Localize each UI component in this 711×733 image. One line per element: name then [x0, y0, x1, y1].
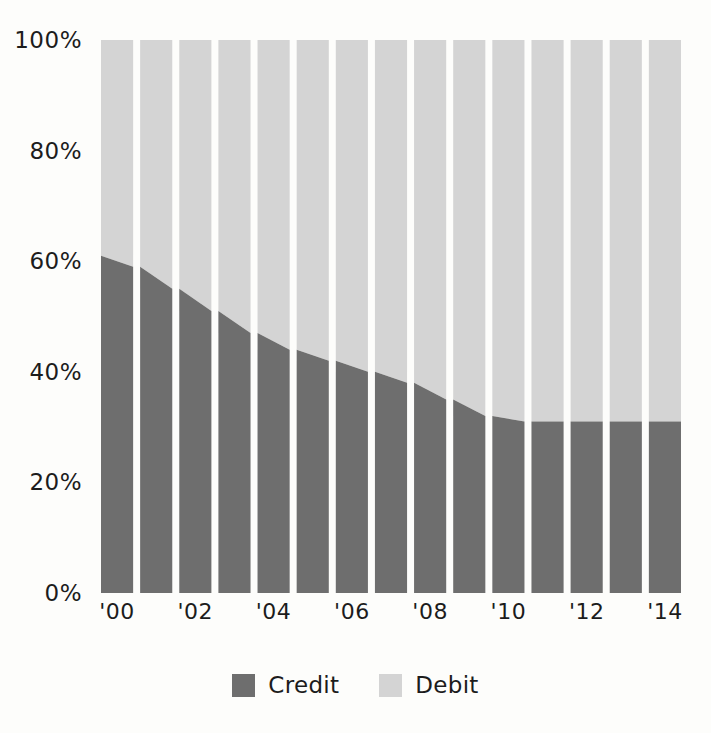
credit-segment — [258, 333, 290, 593]
legend-label: Debit — [415, 674, 478, 697]
chart-column — [375, 40, 407, 593]
y-axis-tick-label: 60% — [0, 250, 92, 273]
legend-swatch-icon — [232, 674, 255, 697]
chart-column — [610, 40, 642, 593]
debit-segment — [297, 40, 329, 361]
legend-item[interactable]: Debit — [379, 674, 478, 697]
debit-segment — [492, 40, 524, 422]
credit-segment — [492, 416, 524, 593]
debit-segment — [258, 40, 290, 350]
y-axis-tick-label: 40% — [0, 360, 92, 383]
credit-segment — [414, 383, 446, 593]
x-axis-tick-label: '06 — [334, 601, 370, 623]
y-axis-tick-label: 80% — [0, 139, 92, 162]
chart-column — [258, 40, 290, 593]
y-axis-tick-label: 20% — [0, 471, 92, 494]
chart-column — [414, 40, 446, 593]
x-axis: '00'02'04'06'08'10'12'14 — [101, 601, 688, 635]
chart-column — [297, 40, 329, 593]
chart-column — [140, 40, 172, 593]
x-axis-tick-label: '00 — [99, 601, 135, 623]
credit-segment — [375, 372, 407, 593]
debit-segment — [649, 40, 681, 422]
legend-item[interactable]: Credit — [232, 674, 339, 697]
credit-segment — [101, 256, 133, 593]
credit-segment — [336, 361, 368, 593]
chart-legend: CreditDebit — [0, 665, 711, 705]
x-axis-tick-label: '10 — [491, 601, 527, 623]
legend-label: Credit — [268, 674, 339, 697]
chart-column — [179, 40, 211, 593]
chart-column — [531, 40, 563, 593]
legend-swatch-icon — [379, 674, 402, 697]
x-axis-tick-label: '02 — [178, 601, 214, 623]
debit-segment — [101, 40, 133, 267]
chart-column — [649, 40, 681, 593]
debit-segment — [531, 40, 563, 422]
debit-segment — [453, 40, 485, 416]
credit-segment — [571, 422, 603, 593]
debit-segment — [179, 40, 211, 311]
chart-column — [336, 40, 368, 593]
x-axis-tick-label: '04 — [256, 601, 292, 623]
credit-segment — [179, 289, 211, 593]
x-axis-tick-label: '12 — [569, 601, 605, 623]
credit-segment — [297, 350, 329, 593]
debit-segment — [140, 40, 172, 289]
debit-segment — [336, 40, 368, 372]
y-axis: 100%80%60%40%20%0% — [0, 0, 92, 733]
credit-segment — [649, 422, 681, 593]
chart-column — [571, 40, 603, 593]
y-axis-tick-label: 0% — [0, 582, 92, 605]
debit-segment — [610, 40, 642, 422]
credit-segment — [531, 422, 563, 593]
debit-segment — [218, 40, 250, 333]
credit-segment — [140, 267, 172, 593]
debit-segment — [414, 40, 446, 399]
chart-column — [218, 40, 250, 593]
chart-column — [492, 40, 524, 593]
plot-svg — [101, 40, 688, 593]
debit-segment — [375, 40, 407, 383]
debit-segment — [571, 40, 603, 422]
credit-segment — [610, 422, 642, 593]
credit-segment — [218, 311, 250, 593]
chart-column — [101, 40, 133, 593]
chart-column — [453, 40, 485, 593]
y-axis-tick-label: 100% — [0, 29, 92, 52]
x-axis-tick-label: '14 — [647, 601, 683, 623]
stacked-area-chart: 100%80%60%40%20%0% '00'02'04'06'08'10'12… — [0, 0, 711, 733]
x-axis-tick-label: '08 — [412, 601, 448, 623]
credit-segment — [453, 399, 485, 593]
plot-area — [101, 40, 688, 593]
